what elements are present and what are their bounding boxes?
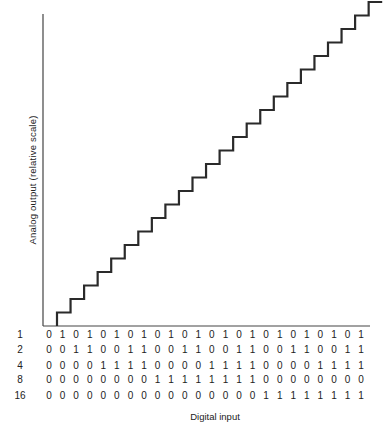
bit-cell: 0	[165, 360, 177, 371]
bit-cell: 0	[260, 329, 272, 340]
bit-cell: 1	[247, 329, 259, 340]
bit-cell: 1	[179, 344, 191, 355]
bit-cell: 0	[124, 374, 136, 385]
bit-row-label: 16	[8, 390, 32, 401]
bit-cell: 0	[328, 374, 340, 385]
bit-cell: 1	[287, 390, 299, 401]
bit-cell: 1	[124, 344, 136, 355]
bit-cell: 0	[124, 390, 136, 401]
bit-cell: 0	[84, 374, 96, 385]
bit-cell: 1	[314, 390, 326, 401]
bit-cell: 0	[247, 390, 259, 401]
bit-cell: 0	[314, 374, 326, 385]
bit-cell: 1	[124, 360, 136, 371]
bit-cell: 0	[70, 374, 82, 385]
bit-cell: 1	[342, 360, 354, 371]
bit-cell: 1	[355, 344, 367, 355]
bit-cell: 1	[57, 329, 69, 340]
bit-cell: 1	[247, 344, 259, 355]
bit-cell: 0	[97, 344, 109, 355]
bit-cell: 0	[70, 360, 82, 371]
bit-cell: 0	[287, 360, 299, 371]
bit-cell: 0	[233, 390, 245, 401]
bit-cell: 0	[301, 374, 313, 385]
bit-cell: 1	[314, 360, 326, 371]
bit-cell: 0	[192, 360, 204, 371]
bit-cell: 0	[111, 344, 123, 355]
bit-cell: 0	[274, 374, 286, 385]
bit-cell: 0	[138, 390, 150, 401]
bit-row-label: 2	[8, 344, 32, 355]
bit-cell: 1	[355, 329, 367, 340]
bit-row-label: 4	[8, 360, 32, 371]
bit-cell: 0	[179, 360, 191, 371]
bit-cell: 1	[287, 344, 299, 355]
bit-cell: 1	[328, 390, 340, 401]
bit-cell: 1	[274, 329, 286, 340]
bit-cell: 0	[314, 329, 326, 340]
bit-cell: 1	[219, 329, 231, 340]
bit-cell: 0	[57, 374, 69, 385]
bit-cell: 0	[219, 344, 231, 355]
bit-cell: 0	[57, 344, 69, 355]
bit-cell: 0	[152, 390, 164, 401]
bit-cell: 1	[342, 390, 354, 401]
bit-cell: 0	[206, 344, 218, 355]
bit-cell: 0	[152, 360, 164, 371]
bit-cell: 1	[165, 329, 177, 340]
bit-cell: 0	[192, 390, 204, 401]
bit-cell: 1	[97, 360, 109, 371]
bit-cell: 0	[165, 390, 177, 401]
bit-cell: 0	[43, 390, 55, 401]
bit-cell: 0	[111, 374, 123, 385]
bit-cell: 1	[179, 374, 191, 385]
bit-cell: 0	[179, 390, 191, 401]
bit-cell: 1	[233, 344, 245, 355]
bit-cell: 1	[111, 360, 123, 371]
bit-cell: 1	[206, 360, 218, 371]
bit-cell: 1	[301, 390, 313, 401]
bit-cell: 1	[138, 360, 150, 371]
y-axis-label: Analog output (relative scale)	[27, 115, 38, 244]
bit-cell: 1	[84, 344, 96, 355]
bit-cell: 0	[43, 344, 55, 355]
bit-cell: 0	[206, 329, 218, 340]
bit-cell: 0	[342, 329, 354, 340]
staircase-line	[57, 2, 382, 326]
bit-cell: 0	[43, 329, 55, 340]
bit-cell: 0	[97, 390, 109, 401]
bit-cell: 0	[152, 329, 164, 340]
bit-cell: 1	[355, 360, 367, 371]
bit-cell: 0	[124, 329, 136, 340]
bit-cell: 1	[111, 329, 123, 340]
bit-cell: 0	[274, 344, 286, 355]
bit-row-label: 8	[8, 374, 32, 385]
bit-cell: 0	[274, 360, 286, 371]
bit-cell: 0	[165, 344, 177, 355]
bit-cell: 1	[70, 344, 82, 355]
bit-row-label: 1	[8, 329, 32, 340]
bit-cell: 0	[355, 374, 367, 385]
dac-staircase-figure: Analog output (relative scale) 101010101…	[0, 0, 384, 433]
bit-cell: 0	[219, 390, 231, 401]
bit-cell: 1	[233, 360, 245, 371]
bit-cell: 1	[206, 374, 218, 385]
bit-cell: 0	[84, 390, 96, 401]
bit-cell: 0	[43, 360, 55, 371]
bit-cell: 0	[138, 374, 150, 385]
bit-cell: 0	[328, 344, 340, 355]
bit-cell: 0	[314, 344, 326, 355]
bit-cell: 0	[84, 360, 96, 371]
bit-cell: 0	[111, 390, 123, 401]
bit-cell: 1	[328, 360, 340, 371]
bit-cell: 1	[274, 390, 286, 401]
bit-cell: 0	[260, 374, 272, 385]
bit-cell: 1	[233, 374, 245, 385]
bit-cell: 1	[165, 374, 177, 385]
bit-cell: 1	[328, 329, 340, 340]
bit-cell: 1	[192, 329, 204, 340]
bit-cell: 1	[301, 329, 313, 340]
bit-cell: 1	[192, 374, 204, 385]
bit-cell: 1	[247, 374, 259, 385]
bit-cell: 0	[260, 344, 272, 355]
